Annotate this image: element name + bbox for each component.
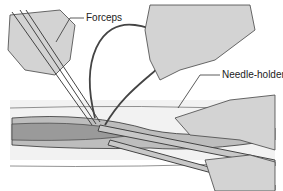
right-bottom-hand-lower	[205, 155, 275, 191]
suture-illustration	[0, 0, 283, 191]
forceps-label: Forceps	[86, 12, 122, 23]
needle-holder-label: Needle-holder	[222, 69, 283, 80]
